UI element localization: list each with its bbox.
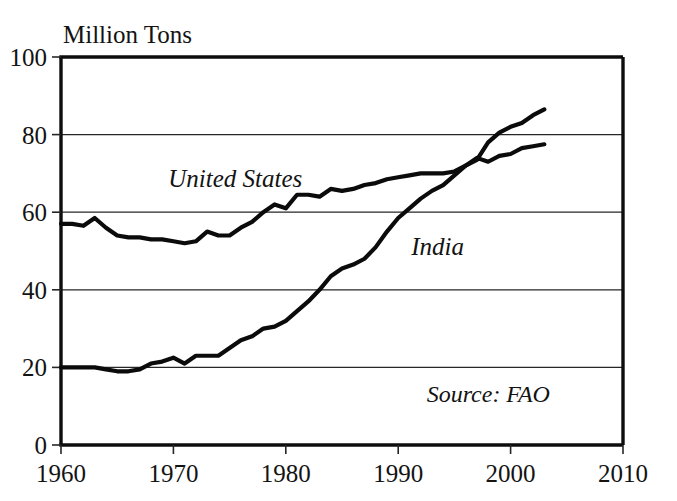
y-tick-label-60: 60 <box>22 199 47 226</box>
x-tick-label-1980: 1980 <box>261 460 311 487</box>
y-axis-unit-label: Million Tons <box>63 21 192 48</box>
source-note: Source: FAO <box>427 381 550 407</box>
x-tick-label-2000: 2000 <box>486 460 536 487</box>
x-tick-label-1990: 1990 <box>373 460 423 487</box>
x-tick-label-2010: 2010 <box>598 460 648 487</box>
x-tick-label-1960: 1960 <box>36 460 86 487</box>
series-label-india: India <box>410 233 464 260</box>
y-tick-label-100: 100 <box>10 44 48 71</box>
x-tick-label-1970: 1970 <box>148 460 198 487</box>
line-chart: 196019701980199020002010 020406080100 Mi… <box>0 0 677 501</box>
chart-container: 196019701980199020002010 020406080100 Mi… <box>0 0 677 501</box>
y-tick-label-40: 40 <box>22 277 47 304</box>
y-tick-label-20: 20 <box>22 354 47 381</box>
chart-background <box>0 0 677 501</box>
series-label-united-states: United States <box>168 165 302 192</box>
y-tick-label-0: 0 <box>35 432 48 459</box>
y-tick-label-80: 80 <box>22 122 47 149</box>
